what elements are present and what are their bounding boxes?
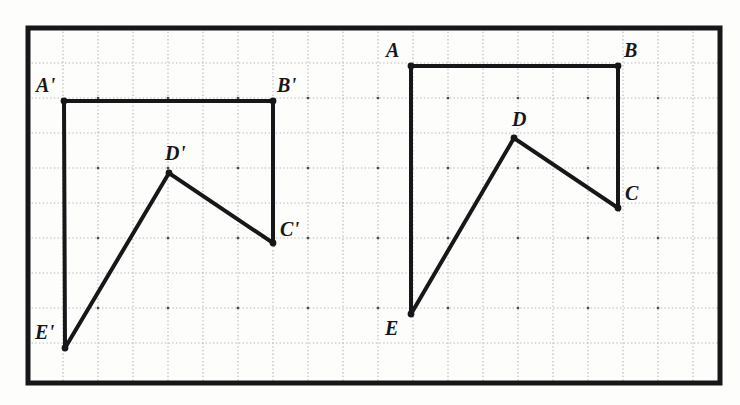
- vertex-dot-C: [615, 205, 622, 212]
- grid-lattice-dot: [447, 307, 450, 310]
- vertex-dot-A: [408, 63, 415, 70]
- grid-lattice-dot: [307, 237, 310, 240]
- grid-lattice-dot: [587, 237, 590, 240]
- vertex-label-A: A: [386, 40, 400, 60]
- vertex-dot-E-prime: [62, 345, 69, 352]
- grid-lattice-dot: [517, 237, 520, 240]
- grid-lattice-dot: [517, 307, 520, 310]
- vertex-dot-D-prime: [166, 170, 173, 177]
- grid-lattice-dot: [587, 97, 590, 100]
- grid-lattice-dot: [447, 237, 450, 240]
- grid-lattice-dot: [447, 97, 450, 100]
- vertex-dot-B-prime: [270, 98, 277, 105]
- grid-lattice-dot: [307, 167, 310, 170]
- vertex-label-C: C: [625, 183, 639, 203]
- grid-lattice-dot: [517, 167, 520, 170]
- grid-lattice-dot: [237, 167, 240, 170]
- grid-lattice-dot: [97, 237, 100, 240]
- grid-lattice-dot: [587, 167, 590, 170]
- vertex-dot-B: [615, 63, 622, 70]
- grid-lattice-dot: [97, 307, 100, 310]
- grid-lattice-dot: [167, 167, 170, 170]
- preimage-pentagon-outline: [411, 66, 618, 314]
- grid-lattice-dot: [377, 307, 380, 310]
- vertex-label-B-prime: B': [277, 75, 297, 95]
- grid-lattice-dot: [167, 97, 170, 100]
- vertex-dots: [61, 63, 622, 352]
- grid-lattice-dot: [377, 97, 380, 100]
- vertex-label-D-prime: D': [165, 143, 186, 163]
- geometry-figure: A'B'C'D'E'ABCDE: [0, 0, 740, 405]
- grid-lattice-dot: [307, 97, 310, 100]
- grid-lattice-dot: [377, 167, 380, 170]
- grid-lattice-dot: [237, 97, 240, 100]
- grid-lattice-dot: [587, 307, 590, 310]
- grid-lattice-dot: [447, 167, 450, 170]
- vertex-dot-D: [511, 135, 518, 142]
- grid-lattice-dot: [167, 307, 170, 310]
- vertex-label-D: D: [512, 109, 527, 129]
- grid-lattice-dot: [97, 97, 100, 100]
- vertex-dot-A-prime: [61, 98, 68, 105]
- vertex-label-C-prime: C': [280, 219, 300, 239]
- vertex-dot-E: [408, 311, 415, 318]
- grid-lattice-dot: [657, 97, 660, 100]
- grid-lattice-dot: [237, 237, 240, 240]
- grid-lattice-dot: [657, 307, 660, 310]
- polygon-lines: [64, 66, 618, 348]
- grid-lattice-dot: [657, 237, 660, 240]
- vertex-dot-C-prime: [270, 240, 277, 247]
- grid-lattice-dot: [517, 97, 520, 100]
- vertex-label-E: E: [385, 318, 399, 338]
- vertex-label-E-prime: E': [35, 322, 55, 342]
- grid-lattice-dot: [657, 167, 660, 170]
- grid-lattice-dot: [307, 307, 310, 310]
- vertex-label-B: B: [624, 40, 638, 60]
- grid-lattice-dot: [167, 237, 170, 240]
- grid-lattice-dot: [237, 307, 240, 310]
- grid-lattice-dot: [377, 237, 380, 240]
- grid-lattice-dot: [97, 167, 100, 170]
- vertex-label-A-prime: A': [36, 75, 56, 95]
